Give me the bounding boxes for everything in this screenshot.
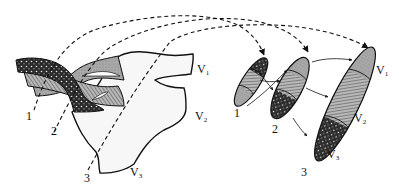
bundle-label-1: 1	[26, 109, 32, 123]
diagram-canvas: 1 2 3 V1 V2 V3 1 2 3 V1 V2 V3	[0, 0, 399, 193]
target-segments	[228, 35, 389, 168]
left-region-v1-label: V1	[197, 62, 210, 77]
target-segment-3	[304, 35, 389, 168]
right-region-v2-label: V2	[354, 111, 367, 126]
left-region-v2-label: V2	[195, 109, 208, 124]
right-region-v3-label: V3	[327, 147, 340, 162]
bundle-label-2: 2	[51, 124, 57, 138]
bundle-label-3: 3	[84, 171, 90, 185]
target-label-1: 1	[234, 106, 240, 120]
right-region-v1-label: V1	[376, 63, 389, 78]
target-label-2: 2	[272, 122, 278, 136]
left-region-v3-label: V3	[130, 165, 143, 180]
target-label-3: 3	[301, 165, 307, 179]
